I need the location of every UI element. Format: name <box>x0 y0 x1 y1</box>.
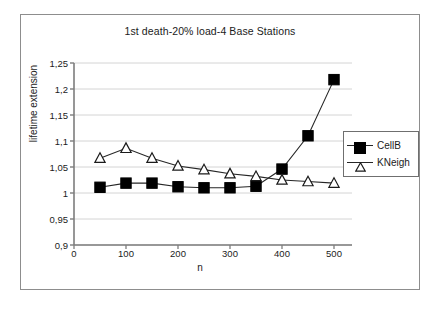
data-point-cellb-250 <box>199 183 209 193</box>
data-point-cellb-450 <box>303 131 313 141</box>
data-point-cellb-500 <box>329 74 339 84</box>
data-point-cellb-400 <box>277 164 287 174</box>
legend-marker-filled-square-icon <box>347 139 373 153</box>
legend: CellB KNeigh <box>343 131 419 177</box>
legend-marker-open-triangle-icon <box>347 156 373 170</box>
legend-item-kneigh[interactable]: KNeigh <box>347 154 414 171</box>
data-point-kneigh-150 <box>147 153 157 163</box>
series-line-kneigh <box>100 148 334 183</box>
chart-figure: 1st death-20% load-4 Base Stations lifet… <box>0 0 439 312</box>
data-point-cellb-350 <box>251 181 261 191</box>
data-point-kneigh-50 <box>95 153 105 163</box>
gridlines <box>74 63 352 245</box>
data-point-cellb-300 <box>225 183 235 193</box>
data-point-cellb-100 <box>121 178 131 188</box>
legend-label-cellb: CellB <box>373 140 401 151</box>
data-series-layer <box>95 74 339 193</box>
axis-lines <box>70 63 352 249</box>
data-point-kneigh-100 <box>121 143 131 153</box>
legend-label-kneigh: KNeigh <box>373 157 410 168</box>
legend-item-cellb[interactable]: CellB <box>347 137 414 154</box>
data-point-cellb-150 <box>147 178 157 188</box>
data-point-cellb-50 <box>95 182 105 192</box>
data-point-cellb-200 <box>173 182 183 192</box>
